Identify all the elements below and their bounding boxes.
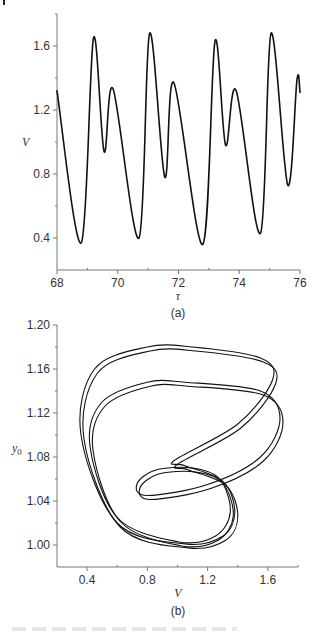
x-tick-label: 74 (233, 276, 247, 290)
panel-a-x-ticks: 6870727476 (50, 268, 307, 290)
y-tick-label: 1.00 (27, 538, 51, 552)
phase-trajectory (80, 345, 274, 545)
panel-b-x-label: V (174, 586, 183, 600)
phase-trajectory-band (83, 349, 277, 549)
x-tick-label: 0.8 (139, 573, 156, 587)
x-tick-label: 1.2 (199, 573, 216, 587)
panel-b-x-ticks: 0.40.81.21.6 (79, 565, 298, 587)
x-tick-label: 68 (50, 276, 64, 290)
x-tick-label: 76 (293, 276, 307, 290)
y-tick-label: 1.08 (27, 450, 51, 464)
x-tick-label: 70 (111, 276, 125, 290)
y-tick-label: 1.04 (27, 494, 51, 508)
panel-a: 0.40.81.21.6 6870727476 V τ (a) (22, 14, 307, 320)
figure-caption-fragment (12, 627, 237, 631)
y-tick-label: 0.4 (33, 231, 50, 245)
panel-b-phase-portrait (80, 345, 283, 549)
panel-a-x-label: τ (176, 289, 181, 303)
phase-trajectory-band (92, 384, 283, 547)
x-tick-label: 1.6 (260, 573, 277, 587)
y-tick-label: 0.8 (33, 167, 50, 181)
y-tick-label: 1.16 (27, 362, 51, 376)
y-tick-label: 1.6 (33, 39, 50, 53)
panel-b-caption-label: (b) (171, 604, 186, 618)
panel-a-caption-label: (a) (171, 306, 186, 320)
y-tick-label: 1.20 (27, 318, 51, 332)
figure: 0.40.81.21.6 6870727476 V τ (a) 1.001.04… (0, 0, 318, 633)
panel-b-y-ticks: 1.001.041.081.121.161.20 (27, 318, 57, 552)
y-tick-label: 1.12 (27, 406, 51, 420)
panel-b-y-label: y0 (11, 441, 22, 457)
panel-a-series-line (57, 33, 300, 245)
panel-b: 1.001.041.081.121.161.20 0.40.81.21.6 y0… (11, 318, 298, 618)
y-tick-label: 1.2 (33, 103, 50, 117)
panel-a-y-label: V (22, 135, 31, 149)
panel-a-y-ticks: 0.40.81.21.6 (33, 14, 57, 245)
x-tick-label: 72 (172, 276, 186, 290)
x-tick-label: 0.4 (79, 573, 96, 587)
